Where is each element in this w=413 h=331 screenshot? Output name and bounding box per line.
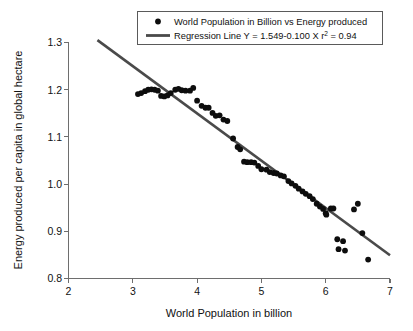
- y-axis-title: Energy produced per capita in global hec…: [12, 51, 24, 270]
- data-point: [155, 88, 161, 94]
- data-point: [342, 248, 348, 254]
- chart-canvas: Energy produced per capita in global hec…: [0, 0, 413, 331]
- legend-regression-main: Regression Line Y = 1.549-0.100 X r: [174, 31, 324, 41]
- scatter-chart: Energy produced per capita in global hec…: [0, 0, 413, 331]
- data-point: [190, 85, 196, 91]
- x-tick-label-5: 5: [258, 285, 264, 297]
- data-point: [336, 246, 342, 252]
- scatter-points-group: [135, 85, 371, 262]
- data-point: [331, 206, 337, 212]
- data-point: [355, 201, 361, 207]
- x-tick-label-4: 4: [194, 285, 200, 297]
- y-tick-label-1.2: 1.2: [47, 84, 62, 96]
- legend-regression-tail: = 0.94: [328, 31, 357, 41]
- data-point: [359, 230, 365, 236]
- data-point: [194, 98, 200, 104]
- y-tick-label-1.0: 1.0: [47, 178, 62, 190]
- data-point: [206, 105, 212, 111]
- data-point: [230, 136, 236, 142]
- y-tick-label-1.1: 1.1: [47, 131, 62, 143]
- x-tick-label-3: 3: [130, 285, 136, 297]
- regression-line: [97, 40, 390, 255]
- data-point: [310, 196, 316, 202]
- x-axis-title: World Population in billion: [166, 307, 292, 319]
- legend-label-scatter: World Population in Billion vs Energy pr…: [174, 17, 367, 27]
- data-point: [237, 146, 243, 152]
- data-point: [365, 257, 371, 263]
- x-tick-label-6: 6: [323, 285, 329, 297]
- data-point: [281, 173, 287, 179]
- legend-dot-marker: [155, 19, 161, 25]
- data-point: [259, 166, 265, 172]
- y-tick-label-0.9: 0.9: [47, 225, 62, 237]
- x-tick-label-7: 7: [387, 285, 393, 297]
- chart-legend: World Population in Billion vs Energy pr…: [138, 12, 383, 45]
- data-point: [323, 212, 329, 218]
- y-tick-label-1.3: 1.3: [47, 36, 62, 48]
- y-tick-label-0.8: 0.8: [47, 272, 62, 284]
- data-point: [334, 236, 340, 242]
- legend-label-regression: Regression Line Y = 1.549-0.100 X r2 = 0…: [174, 30, 357, 41]
- data-point: [224, 118, 230, 124]
- x-tick-label-2: 2: [66, 285, 72, 297]
- data-point: [351, 207, 357, 213]
- data-point: [340, 238, 346, 244]
